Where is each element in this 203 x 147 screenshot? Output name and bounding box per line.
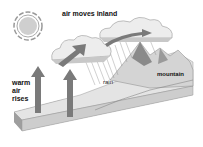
- cloud-right: [100, 17, 173, 42]
- mountain-label: mountain: [157, 70, 184, 78]
- warm-air-rises-label: warm air rises: [12, 79, 34, 103]
- sun-icon: [14, 12, 42, 40]
- rain-label: rain: [103, 78, 113, 86]
- air-moves-inland-label: air moves inland: [62, 10, 117, 18]
